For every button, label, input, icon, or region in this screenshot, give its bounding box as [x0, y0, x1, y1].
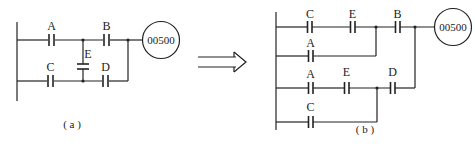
contact-a: A [47, 19, 56, 46]
contact-label: D [388, 65, 397, 79]
contact-c: C [306, 100, 314, 128]
contact-d: D [388, 65, 397, 94]
contact-e: E [343, 65, 350, 94]
contact-label: E [84, 47, 91, 61]
caption-a: ( a ) [63, 118, 81, 131]
contact-e: E [77, 47, 92, 69]
output-coil-a: 00500 [143, 22, 180, 59]
junction-dot [81, 38, 84, 41]
caption-b: ( b ) [356, 123, 375, 136]
contact-label: D [101, 60, 110, 74]
ladder-diagram-b: C E B A A E [276, 7, 472, 136]
junction-dot [375, 86, 378, 89]
contact-c: C [306, 7, 314, 33]
contact-label: E [343, 65, 350, 79]
output-coil-b: 00500 [435, 9, 472, 46]
contact-label: B [102, 19, 110, 33]
contact-label: E [349, 7, 356, 21]
contact-label: B [393, 7, 401, 21]
ladder-diagram-a: A B C D E 00500 [17, 19, 180, 131]
contact-c: C [46, 60, 54, 87]
junction-dot [374, 25, 377, 28]
contact-label: C [306, 100, 314, 114]
junction-dot [126, 38, 129, 41]
contact-a: A [306, 67, 315, 94]
junction-dot [413, 25, 416, 28]
coil-label: 00500 [147, 34, 175, 46]
contact-e: E [349, 7, 356, 33]
contact-b: B [102, 19, 110, 46]
contact-label: A [47, 19, 56, 33]
ladder-diagram-canvas: A B C D E 00500 [0, 0, 475, 146]
contact-label: A [306, 36, 315, 50]
contact-b: B [393, 7, 401, 33]
contact-label: C [46, 60, 54, 74]
contact-label: C [306, 7, 314, 21]
double-arrow-right-icon [198, 52, 246, 72]
coil-label: 00500 [439, 21, 467, 33]
contact-label: A [306, 67, 315, 81]
contact-a: A [306, 36, 315, 62]
contact-d: D [101, 60, 110, 87]
junction-dot [81, 79, 84, 82]
